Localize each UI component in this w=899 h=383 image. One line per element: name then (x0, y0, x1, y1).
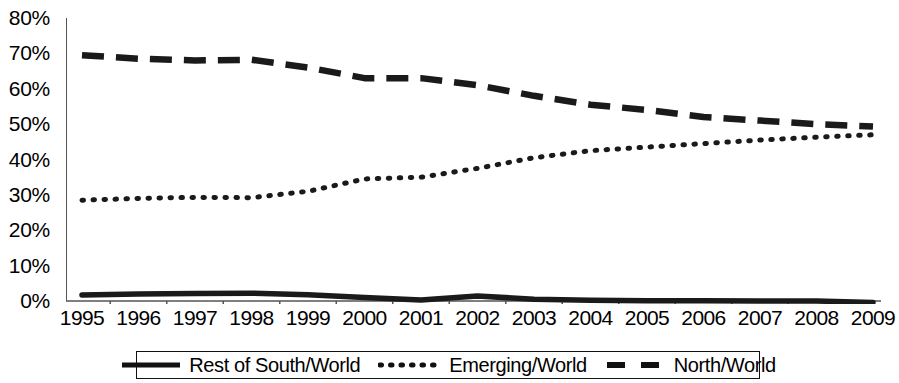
y-tick-label: 20% (0, 219, 58, 240)
y-tick-label: 30% (0, 184, 58, 205)
x-axis: 1995199619971998199920002001200220032004… (0, 306, 899, 336)
y-tick-label: 60% (0, 78, 58, 99)
plot-svg (66, 14, 881, 304)
y-axis: 80%70%60%50%40%30%20%10%0% (0, 0, 58, 320)
y-tick-label: 50% (0, 113, 58, 134)
legend-entry[interactable]: North/World (605, 355, 776, 375)
legend-label: Emerging/World (449, 355, 586, 375)
line-chart: 80%70%60%50%40%30%20%10%0% 1995199619971… (0, 0, 899, 383)
legend-label: North/World (674, 355, 776, 375)
legend-label: Rest of South/World (189, 355, 360, 375)
legend-entry[interactable]: Emerging/World (378, 355, 586, 375)
x-tick-label: 2009 (838, 306, 899, 330)
legend-swatch-dotted-icon (378, 358, 442, 372)
plot-area (66, 14, 881, 304)
legend-swatch-dashed-icon (605, 358, 667, 372)
series-line-north-world (82, 55, 873, 126)
y-tick-label: 40% (0, 149, 58, 170)
y-tick-label: 10% (0, 255, 58, 276)
series-line-emerging-world (82, 135, 873, 200)
y-tick-label: 70% (0, 42, 58, 63)
legend-swatch-solid-icon (120, 358, 182, 372)
legend-entry[interactable]: Rest of South/World (120, 355, 360, 375)
chart-legend: Rest of South/WorldEmerging/WorldNorth/W… (136, 351, 760, 379)
y-tick-label: 80% (0, 7, 58, 28)
